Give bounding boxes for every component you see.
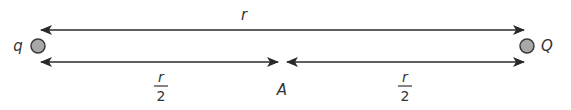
charge-Q: Q [520,37,553,55]
distance-r-label: r [241,6,248,24]
fraction-numerator: r [402,69,409,85]
fraction-denominator: 2 [401,88,410,104]
charge-circle-icon [31,39,45,53]
fraction-numerator: r [158,69,165,85]
distance-r-arrow: r [41,6,524,30]
right-half-fraction: r 2 [398,69,412,104]
charge-circle-icon [520,39,534,53]
charge-Q-label: Q [541,37,553,55]
midpoint-A-label: A [276,81,287,99]
fraction-denominator: 2 [157,88,166,104]
charge-distance-diagram: r q Q r 2 A r 2 [0,0,571,110]
charge-q: q [13,37,45,55]
charge-q-label: q [13,37,23,55]
left-half-fraction: r 2 [154,69,168,104]
